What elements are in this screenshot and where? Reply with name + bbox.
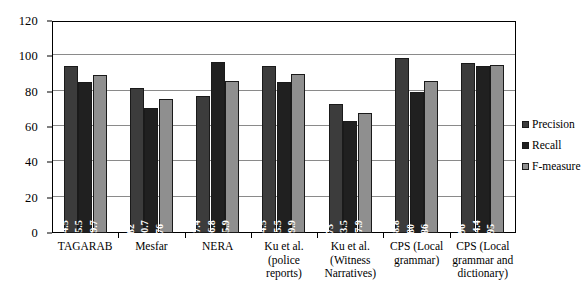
x-axis-tick-mark (317, 233, 318, 238)
bar-precision: 94.5 (64, 66, 78, 233)
x-axis-tick-mark (185, 233, 186, 238)
bar-fmeasure: 67.9 (358, 113, 372, 233)
x-axis-tick-mark (118, 233, 119, 238)
bar-recall: 85.5 (277, 82, 291, 233)
bar-value-label: 96.8 (205, 220, 218, 238)
x-axis-tick-label: Ku et al. (Witness Narratives) (317, 240, 383, 281)
bar-value-label: 63.5 (337, 220, 350, 238)
bar-group: 94.585.589.7 (52, 21, 118, 233)
bar-precision: 94.5 (262, 66, 276, 233)
legend-item-recall[interactable]: Recall (522, 139, 586, 152)
chart-legend: PrecisionRecallF-measure (522, 118, 586, 181)
bar-precision: 73 (329, 104, 343, 233)
bar-recall: 94.4 (476, 66, 490, 233)
y-axis-tick-label: 60 (25, 121, 38, 134)
bar-precision: 98.8 (395, 58, 409, 233)
x-axis-tick-mark (383, 233, 384, 238)
bar-value-label: 76 (153, 224, 166, 234)
bar-fmeasure: 86 (424, 81, 438, 233)
bar-fmeasure: 95 (490, 65, 504, 233)
y-axis: 020406080100120 (0, 0, 46, 283)
legend-item-fmeasure[interactable]: F-measure (522, 160, 586, 173)
bar-group: 8270.776 (118, 21, 184, 233)
bar-precision: 96 (461, 63, 475, 233)
bar-recall: 96.8 (211, 62, 225, 233)
bar-value-label: 95 (484, 224, 497, 234)
bar-value-label: 96 (455, 224, 468, 234)
bar-group: 94.585.589.9 (251, 21, 317, 233)
bar-group: 7363.567.9 (317, 21, 383, 233)
legend-label: Recall (532, 139, 561, 152)
bar-fmeasure: 89.9 (291, 74, 305, 233)
x-axis-tick-label: Mesfar (118, 240, 184, 254)
bar-value-label: 85.5 (72, 220, 85, 238)
bar-value-label: 82 (124, 224, 137, 234)
bar-value-label: 73 (323, 224, 336, 234)
x-axis-tick-label: Ku et al. (police reports) (251, 240, 317, 281)
x-axis-tick-label: NERA (185, 240, 251, 254)
bar-value-label: 94.4 (470, 220, 483, 238)
y-axis-tick-label: 20 (25, 191, 38, 204)
bar-value-label: 94.5 (256, 220, 269, 238)
bar-recall: 63.5 (343, 121, 357, 233)
x-axis-tick-label: CPS (Local grammar) (383, 240, 449, 267)
y-axis-tick-label: 120 (19, 15, 38, 28)
legend-label: F-measure (532, 160, 581, 173)
bar-value-label: 94.5 (58, 220, 71, 238)
bar-value-label: 77.4 (190, 220, 203, 238)
x-axis: TAGARABMesfarNERAKu et al. (police repor… (52, 240, 516, 283)
bar-recall: 70.7 (144, 108, 158, 233)
bar-value-label: 67.9 (352, 220, 365, 238)
bar-chart: 020406080100120 94.585.589.78270.77677.4… (0, 0, 587, 283)
bar-precision: 82 (130, 88, 144, 233)
x-axis-tick-label: CPS (Local grammar and dictionary) (450, 240, 516, 281)
bar-value-label: 80 (404, 224, 417, 234)
y-axis-tick-label: 0 (32, 227, 38, 240)
bar-group: 77.496.885.9 (185, 21, 251, 233)
bar-recall: 80 (410, 92, 424, 233)
bar-group: 9694.495 (450, 21, 516, 233)
bar-fmeasure: 89.7 (93, 75, 107, 233)
legend-swatch-icon (522, 163, 529, 170)
legend-label: Precision (532, 118, 575, 131)
y-axis-tick-label: 80 (25, 85, 38, 98)
y-axis-tick-label: 40 (25, 156, 38, 169)
x-axis-tick-mark (251, 233, 252, 238)
bar-fmeasure: 76 (159, 99, 173, 233)
y-axis-tick-label: 100 (19, 50, 38, 63)
bar-value-label: 70.7 (138, 220, 151, 238)
bar-value-label: 89.7 (87, 220, 100, 238)
legend-item-precision[interactable]: Precision (522, 118, 586, 131)
bar-group: 98.88086 (383, 21, 449, 233)
bar-fmeasure: 85.9 (225, 81, 239, 233)
bars-layer: 94.585.589.78270.77677.496.885.994.585.5… (52, 21, 516, 233)
bar-value-label: 85.5 (271, 220, 284, 238)
bar-recall: 85.5 (78, 82, 92, 233)
bar-value-label: 89.9 (285, 220, 298, 238)
bar-value-label: 98.8 (389, 220, 402, 238)
legend-swatch-icon (522, 142, 529, 149)
bar-value-label: 85.9 (219, 220, 232, 238)
bar-precision: 77.4 (196, 96, 210, 233)
legend-swatch-icon (522, 121, 529, 128)
x-axis-tick-mark (450, 233, 451, 238)
bar-value-label: 86 (418, 224, 431, 234)
x-axis-tick-label: TAGARAB (52, 240, 118, 254)
